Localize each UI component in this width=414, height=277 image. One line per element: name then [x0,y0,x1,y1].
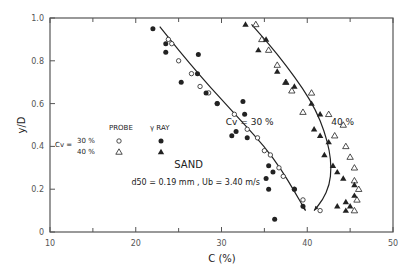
filled-circle-marker [179,80,184,85]
filled-triangle-marker [321,152,327,157]
open-triangle-marker [347,154,353,159]
open-triangle-marker [116,149,122,154]
open-circle-marker [198,84,202,88]
filled-triangle-marker [158,149,164,154]
legend-row-1: 40 % [77,148,95,156]
y-tick-label: 0.2 [31,185,44,194]
open-circle-marker [189,71,193,75]
open-triangle-marker [308,90,314,95]
y-tick-label: 0.4 [31,142,44,151]
annotation-0: Cv = 30 % [226,117,274,127]
filled-circle-marker [150,26,155,31]
filled-circle-marker [229,133,234,138]
x-tick-label: 30 [216,239,226,248]
open-circle-marker [301,198,305,202]
filled-circle-marker [272,217,277,222]
filled-triangle-marker [283,79,289,84]
filled-circle-marker [266,187,271,192]
filled-circle-marker [195,71,200,76]
filled-circle-marker [245,135,250,140]
chart: 102030405000.20.40.60.81.0 PROBEγ RAYCv … [0,0,414,277]
filled-triangle-marker [317,133,323,138]
filled-triangle-marker [334,169,340,174]
filled-triangle-marker [343,199,349,204]
legend-row-0: 30 % [77,137,95,145]
open-circle-marker [166,37,170,41]
filled-triangle-marker [340,175,346,180]
axes: 102030405000.20.40.60.81.0 [31,14,398,248]
filled-circle-marker [159,139,164,144]
open-triangle-marker [274,62,280,67]
open-circle-marker [281,174,285,178]
open-circle-marker [170,41,174,45]
filled-circle-marker [234,129,239,134]
legend-header-ray: γ RAY [150,124,170,132]
filled-circle-marker [204,90,209,95]
filled-circle-marker [266,163,271,168]
filled-triangle-marker [308,100,314,105]
legend: PROBEγ RAYCv =30 %40 % [55,124,170,156]
annotation-1: 40 % [331,117,354,127]
open-triangle-marker [331,133,337,138]
filled-triangle-marker [317,111,323,116]
x-tick-label: 50 [388,239,398,248]
open-triangle-marker [300,109,306,114]
filled-circle-marker [163,50,168,55]
annotation-3: d50 = 0.19 mm , Ub = 3.40 m/s [131,178,259,187]
filled-circle-marker [196,52,201,57]
open-triangle-marker [325,111,331,116]
x-tick-label: 20 [131,239,141,248]
filled-circle-marker [264,176,269,181]
open-circle-marker [318,208,322,212]
open-circle-marker [262,148,266,152]
open-triangle-marker [253,21,259,26]
y-axis-label: y/D [16,116,27,133]
filled-circle-marker [163,41,168,46]
filled-circle-marker [292,187,297,192]
filled-circle-marker [240,99,245,104]
open-circle-marker [268,153,272,157]
filled-triangle-marker [242,21,248,26]
filled-triangle-marker [311,126,317,131]
filled-circle-marker [300,204,305,209]
open-circle-marker [245,127,249,131]
open-circle-marker [117,139,121,143]
open-triangle-marker [343,143,349,148]
filled-triangle-marker [255,47,261,52]
y-tick-label: 0 [39,228,44,237]
filled-triangle-marker [274,68,280,73]
y-tick-label: 1.0 [31,14,44,23]
x-tick-label: 10 [45,239,55,248]
filled-triangle-marker [291,83,297,88]
open-circle-marker [277,166,281,170]
x-axis-label: C (%) [208,253,236,264]
filled-triangle-marker [351,192,357,197]
scatter-plot: 102030405000.20.40.60.81.0 PROBEγ RAYCv … [0,0,414,277]
y-tick-label: 0.8 [31,57,44,66]
open-triangle-marker [351,165,357,170]
annotation-2: SAND [174,159,203,170]
open-circle-marker [255,136,259,140]
open-triangle-marker [265,47,271,52]
legend-row-label: Cv = [55,141,72,149]
filled-triangle-marker [334,203,340,208]
y-tick-label: 0.6 [31,100,44,109]
open-circle-marker [176,59,180,63]
open-circle-marker [232,112,236,116]
legend-header-probe: PROBE [109,124,133,132]
filled-circle-marker [270,170,275,175]
filled-circle-marker [215,101,220,106]
x-tick-label: 40 [302,239,312,248]
